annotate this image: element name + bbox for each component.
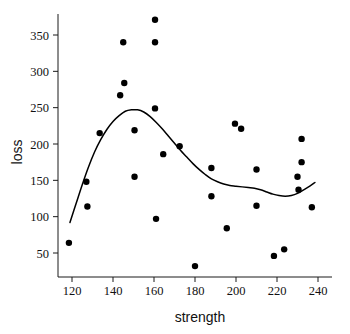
data-point bbox=[298, 159, 304, 165]
smoothed-fit-path bbox=[70, 110, 315, 223]
data-points bbox=[66, 17, 315, 270]
y-tick-label: 50 bbox=[37, 247, 50, 261]
x-tick-label: 200 bbox=[227, 284, 246, 298]
x-tick-label: 220 bbox=[268, 284, 287, 298]
y-tick-label: 200 bbox=[30, 138, 49, 152]
data-point bbox=[309, 204, 315, 210]
data-point bbox=[84, 203, 90, 209]
y-tick-label: 300 bbox=[30, 65, 49, 79]
y-tick-label: 150 bbox=[30, 174, 49, 188]
data-point bbox=[66, 240, 72, 246]
x-tick-label: 180 bbox=[186, 284, 205, 298]
data-point bbox=[192, 263, 198, 269]
data-point bbox=[176, 143, 182, 149]
data-point bbox=[232, 120, 238, 126]
y-tick-label: 350 bbox=[30, 29, 49, 43]
data-point bbox=[152, 39, 158, 45]
data-point bbox=[131, 127, 137, 133]
data-point bbox=[121, 80, 127, 86]
data-point bbox=[253, 203, 259, 209]
data-point bbox=[298, 136, 304, 142]
data-point bbox=[208, 165, 214, 171]
data-point bbox=[153, 216, 159, 222]
x-axis-ticks bbox=[72, 277, 318, 282]
data-point bbox=[295, 187, 301, 193]
data-point bbox=[96, 130, 102, 136]
x-axis-tick-labels: 120140160180200220240 bbox=[63, 284, 328, 298]
data-point bbox=[152, 17, 158, 23]
x-tick-label: 160 bbox=[145, 284, 164, 298]
data-point bbox=[152, 105, 158, 111]
data-point bbox=[253, 166, 259, 172]
y-axis-title: loss bbox=[9, 140, 25, 165]
data-point bbox=[224, 225, 230, 231]
data-point bbox=[294, 174, 300, 180]
x-tick-label: 140 bbox=[104, 284, 123, 298]
smoothed-fit-curve bbox=[70, 110, 315, 223]
y-tick-label: 250 bbox=[30, 101, 49, 115]
data-point bbox=[131, 174, 137, 180]
data-point bbox=[83, 179, 89, 185]
data-point bbox=[120, 39, 126, 45]
y-axis-tick-labels: 50100150200250300350 bbox=[30, 29, 49, 261]
data-point bbox=[271, 253, 277, 259]
y-tick-label: 100 bbox=[30, 210, 49, 224]
x-tick-label: 240 bbox=[309, 284, 328, 298]
data-point bbox=[117, 92, 123, 98]
y-axis: 50100150200250300350 bbox=[30, 14, 58, 277]
x-tick-label: 120 bbox=[63, 284, 82, 298]
scatter-plot-figure: 50100150200250300350 1201401601802002202… bbox=[0, 0, 350, 334]
y-axis-ticks bbox=[53, 35, 58, 253]
data-point bbox=[238, 126, 244, 132]
x-axis-title: strength bbox=[175, 309, 226, 325]
data-point bbox=[281, 246, 287, 252]
plot-canvas: 50100150200250300350 1201401601802002202… bbox=[0, 0, 350, 334]
data-point bbox=[208, 193, 214, 199]
data-point bbox=[160, 151, 166, 157]
x-axis: 120140160180200220240 bbox=[58, 277, 332, 298]
